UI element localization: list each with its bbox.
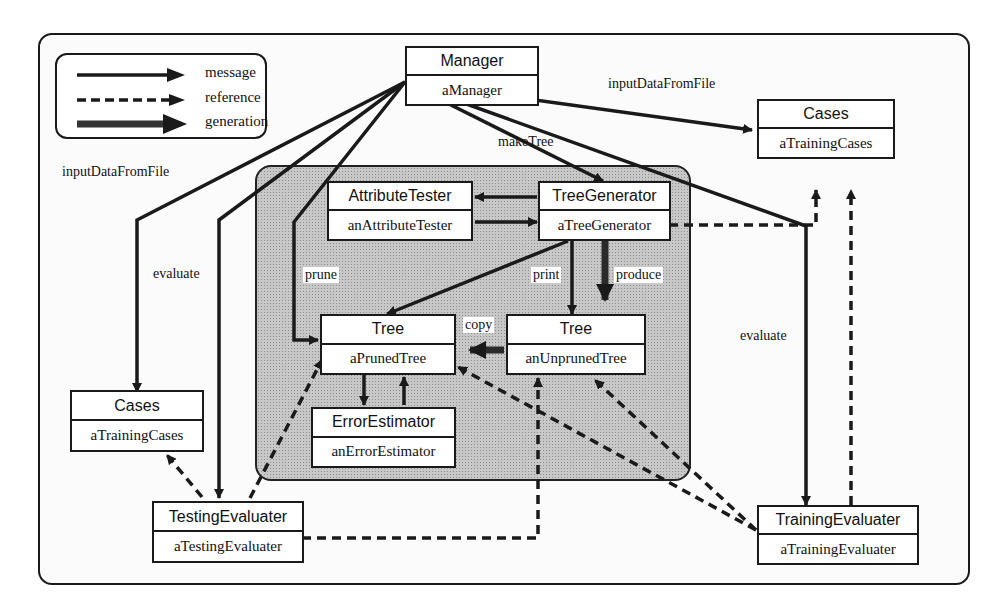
label-prune: prune (303, 267, 339, 283)
label-copy: copy (463, 317, 494, 333)
object-cases-top[interactable]: Cases aTrainingCases (757, 99, 895, 159)
object-class-name: TrainingEvaluater (759, 507, 917, 535)
object-class-name: Cases (759, 101, 893, 129)
object-class-name: Cases (72, 392, 202, 421)
object-instance-name: anErrorEstimator (313, 438, 454, 467)
object-instance-name: aManager (407, 76, 537, 104)
object-class-name: Manager (407, 48, 537, 76)
object-class-name: Tree (322, 316, 454, 345)
label-evaluate-left: evaluate (153, 266, 200, 282)
object-class-name: Tree (508, 316, 644, 345)
object-instance-name: aTrainingCases (759, 129, 893, 157)
label-make-tree: makeTree (498, 134, 553, 150)
object-instance-name: anUnprunedTree (508, 345, 644, 374)
label-input-left: inputDataFromFile (62, 164, 169, 180)
object-manager[interactable]: Manager aManager (405, 46, 539, 106)
object-instance-name: aTrainingEvaluater (759, 535, 917, 563)
object-class-name: ErrorEstimator (313, 409, 454, 438)
label-produce: produce (614, 267, 663, 283)
object-class-name: TestingEvaluater (154, 503, 302, 532)
label-evaluate-right: evaluate (740, 328, 787, 344)
object-cases-left[interactable]: Cases aTrainingCases (70, 390, 204, 452)
object-instance-name: aPrunedTree (322, 345, 454, 374)
object-class-name: AttributeTester (329, 183, 471, 211)
label-print: print (531, 267, 561, 283)
object-testing-evaluater[interactable]: TestingEvaluater aTestingEvaluater (152, 501, 304, 563)
label-input-top: inputDataFromFile (608, 76, 715, 92)
object-unpruned-tree[interactable]: Tree anUnprunedTree (506, 314, 646, 375)
ref-tg-to-cases (669, 190, 816, 225)
object-instance-name: anAttributeTester (329, 211, 471, 239)
object-error-estimator[interactable]: ErrorEstimator anErrorEstimator (311, 407, 456, 468)
object-attribute-tester[interactable]: AttributeTester anAttributeTester (327, 181, 473, 241)
object-instance-name: aTreeGenerator (540, 211, 669, 239)
object-instance-name: aTestingEvaluater (154, 532, 302, 561)
object-pruned-tree[interactable]: Tree aPrunedTree (320, 314, 456, 375)
object-tree-generator[interactable]: TreeGenerator aTreeGenerator (538, 181, 671, 241)
object-instance-name: aTrainingCases (72, 421, 202, 450)
ref-testev-to-cases (167, 455, 202, 497)
object-training-evaluater[interactable]: TrainingEvaluater aTrainingEvaluater (757, 505, 919, 565)
object-class-name: TreeGenerator (540, 183, 669, 211)
diagram-canvas: message reference generation (0, 0, 995, 613)
